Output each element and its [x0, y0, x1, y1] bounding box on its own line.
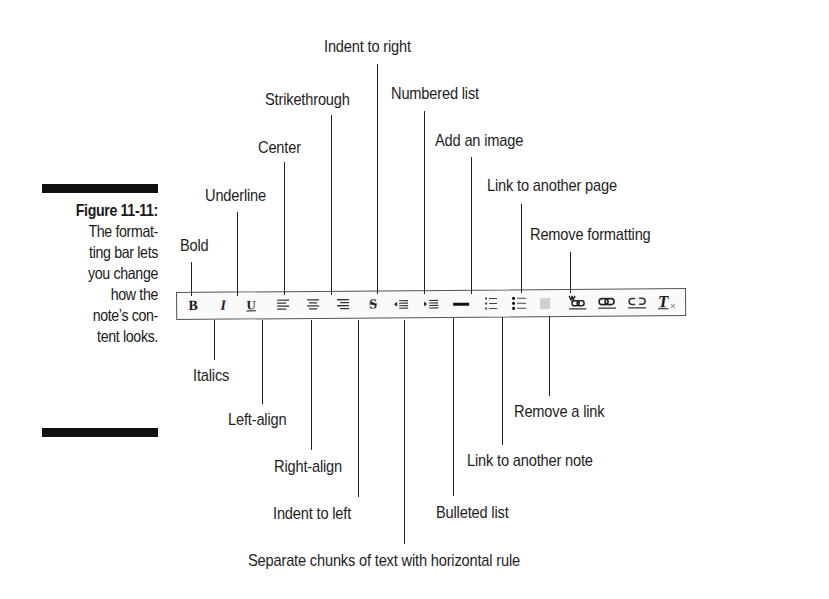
italic-icon: I: [220, 298, 226, 314]
unlink-icon: [627, 295, 647, 309]
underline-button[interactable]: U: [241, 295, 261, 315]
caption-bottom-rule: [42, 428, 158, 437]
link-note-icon: [567, 295, 587, 311]
bold-icon: B: [188, 298, 197, 314]
callout-indent-right: Indent to right: [324, 37, 411, 57]
caption-line: ting bar lets: [39, 242, 158, 263]
callout-horizontal-rule: Separate chunks of text with horizontal …: [248, 551, 520, 571]
leader-line: [191, 262, 192, 296]
formatting-toolbar: B I U S T ✕: [176, 288, 686, 320]
leader-line: [377, 64, 378, 294]
callout-add-image: Add an image: [435, 131, 523, 151]
leader-line: [331, 115, 332, 295]
horizontal-rule-button[interactable]: [451, 294, 471, 314]
callout-center: Center: [258, 138, 301, 158]
leader-line: [521, 204, 522, 293]
callout-link-note: Link to another note: [467, 451, 593, 471]
underline-icon: U: [246, 297, 256, 313]
align-center-button[interactable]: [303, 295, 323, 315]
callout-underline: Underline: [205, 186, 266, 206]
link-page-button[interactable]: [597, 293, 617, 313]
leader-line: [570, 252, 571, 293]
callout-link-page: Link to another page: [487, 176, 617, 196]
callout-bold: Bold: [180, 236, 209, 256]
caption-line: you change: [39, 263, 158, 284]
caption-line: The format-: [39, 221, 158, 242]
leader-line: [471, 157, 472, 294]
link-note-button[interactable]: [567, 293, 587, 313]
callout-italics: Italics: [193, 366, 229, 386]
figure-caption: Figure 11-11: The format- ting bar lets …: [39, 200, 158, 347]
leader-line: [502, 317, 503, 445]
indent-icon: [423, 299, 439, 309]
callout-bulleted-list: Bulleted list: [436, 503, 509, 523]
caption-line: how the: [39, 284, 158, 305]
figure-label: Figure 11-11:: [39, 200, 158, 221]
bulleted-list-button[interactable]: [509, 293, 529, 313]
caption-line: note’s con-: [39, 305, 158, 326]
leader-line: [424, 111, 425, 294]
leader-line: [358, 320, 359, 497]
numbered-list-button[interactable]: [481, 293, 501, 313]
align-right-button[interactable]: [333, 295, 353, 315]
indent-right-button[interactable]: [421, 294, 441, 314]
leader-line: [453, 318, 454, 496]
caption-line: tent looks.: [39, 326, 158, 347]
callout-strikethrough: Strikethrough: [265, 90, 350, 110]
align-left-button[interactable]: [273, 295, 293, 315]
link-icon: [597, 296, 617, 310]
x-mark-icon: ✕: [669, 302, 676, 311]
strikethrough-button[interactable]: S: [363, 294, 383, 314]
callout-left-align: Left-align: [228, 410, 286, 430]
callout-numbered-list: Numbered list: [391, 84, 479, 104]
indent-left-button[interactable]: [391, 294, 411, 314]
italic-button[interactable]: I: [213, 296, 233, 316]
clear-formatting-icon: T: [658, 292, 669, 312]
leader-line: [311, 320, 312, 450]
leader-line: [549, 316, 550, 396]
align-right-icon: [336, 299, 350, 311]
callout-remove-link: Remove a link: [514, 402, 604, 422]
horizontal-rule-icon: [453, 302, 469, 305]
leader-line: [404, 320, 405, 544]
leader-line: [262, 320, 263, 404]
outdent-icon: [393, 299, 409, 309]
remove-formatting-button[interactable]: T ✕: [657, 292, 677, 312]
leader-line: [237, 212, 238, 296]
callout-right-align: Right-align: [274, 457, 342, 477]
image-icon: [540, 298, 550, 309]
align-center-icon: [306, 299, 320, 311]
caption-top-rule: [42, 184, 158, 193]
add-image-button[interactable]: [535, 293, 555, 313]
leader-line: [214, 320, 215, 360]
callout-indent-left: Indent to left: [273, 504, 351, 524]
remove-link-button[interactable]: [627, 292, 647, 312]
leader-line: [284, 162, 285, 295]
bulleted-list-icon: [511, 296, 527, 310]
strikethrough-icon: S: [369, 296, 377, 312]
numbered-list-icon: [484, 296, 498, 310]
callout-remove-formatting: Remove formatting: [530, 225, 651, 245]
align-left-icon: [276, 299, 290, 311]
bold-button[interactable]: B: [183, 296, 203, 316]
